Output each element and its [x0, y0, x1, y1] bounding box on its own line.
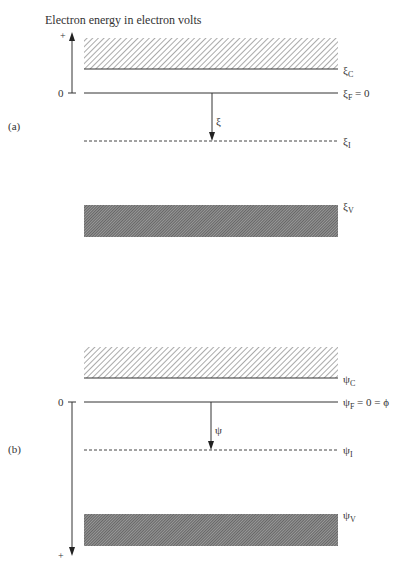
- band-diagram: Electron energy in electron volts + 0 ξC…: [0, 0, 395, 561]
- conduction-band-label-b: ψC: [343, 373, 355, 388]
- potential-arrow-label-b: ψ: [215, 424, 222, 436]
- valence-band-label-a: ξV: [343, 200, 354, 215]
- axis-title: Electron energy in electron volts: [45, 13, 202, 27]
- axis-zero-a: 0: [58, 87, 64, 99]
- arrow-down-icon: [209, 132, 215, 141]
- panel-label-b: (b): [8, 443, 21, 456]
- conduction-band-b: [84, 347, 338, 378]
- valence-band-a: [84, 205, 338, 237]
- axis-plus-a: +: [60, 30, 66, 41]
- panel-b: ψC 0 + ψF = 0 = ϕ ψ ψI (b) ψV: [8, 347, 389, 561]
- fermi-level-label-a: ξF = 0: [343, 87, 370, 102]
- potential-arrow-label-a: ξ: [216, 115, 221, 128]
- conduction-band-label-a: ξC: [343, 64, 353, 79]
- intrinsic-level-label-b: ψI: [343, 444, 353, 459]
- intrinsic-level-label-a: ξI: [343, 135, 351, 150]
- valence-band-b: [84, 514, 338, 546]
- axis-plus-b: +: [58, 550, 64, 561]
- fermi-level-label-b: ψF = 0 = ϕ: [343, 396, 389, 411]
- arrow-down-icon: [208, 441, 214, 450]
- conduction-band-a: [84, 38, 338, 69]
- valence-band-label-b: ψV: [343, 509, 356, 524]
- axis-zero-b: 0: [58, 396, 64, 408]
- panel-label-a: (a): [8, 120, 21, 133]
- panel-a: + 0 ξC ξF = 0 ξ ξI (a) ξV: [8, 30, 370, 237]
